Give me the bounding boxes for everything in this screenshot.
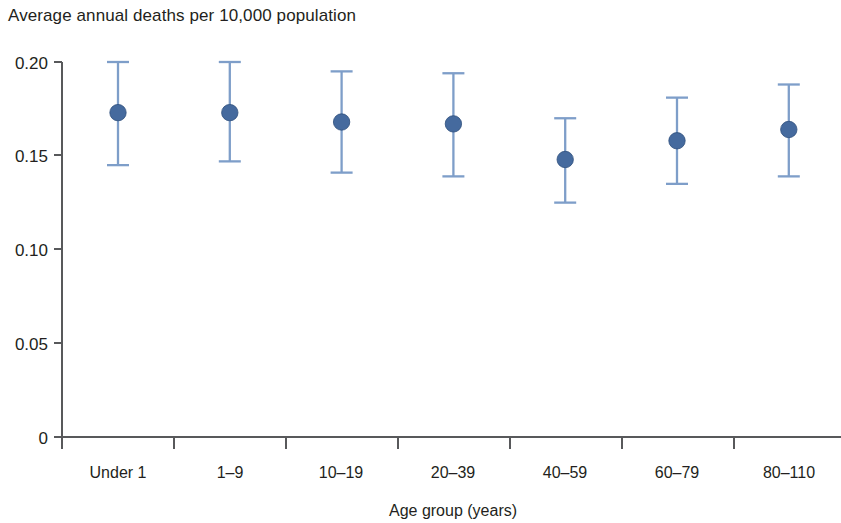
y-tick-label: 0.05 [15, 335, 48, 354]
x-tick-marks [62, 437, 734, 449]
error-bar-point [778, 85, 800, 177]
y-tick-label: 0.15 [15, 147, 48, 166]
error-bar-point [331, 71, 353, 172]
error-bar-point [666, 98, 688, 184]
chart-page: Average annual deaths per 10,000 populat… [0, 0, 841, 523]
y-tick-label: 0.10 [15, 241, 48, 260]
x-tick-labels: Under 1 1–9 10–19 20–39 40–59 60–79 80–1… [90, 464, 816, 481]
data-point-marker [110, 104, 126, 120]
x-tick-label-40-59: 40–59 [543, 464, 588, 481]
data-point-marker [222, 104, 238, 120]
x-tick-label-80-110: 80–110 [763, 464, 815, 481]
y-tick-label: 0 [39, 429, 48, 448]
y-tick-label: 0.20 [15, 54, 48, 73]
x-tick-label-20-39: 20–39 [431, 464, 476, 481]
x-axis-title: Age group (years) [389, 502, 517, 519]
data-point-marker [333, 114, 349, 130]
y-tick-marks [54, 62, 62, 437]
error-bar-point [107, 62, 129, 165]
errorbar-chart: 0.20 0.15 0.10 0.05 0 Under 1 1–9 10–19 … [0, 0, 841, 523]
data-point-marker [557, 151, 573, 167]
x-tick-label-1-9: 1–9 [217, 464, 244, 481]
error-bar-point [554, 118, 576, 202]
x-tick-label-60-79: 60–79 [655, 464, 700, 481]
x-tick-label-10-19: 10–19 [319, 464, 364, 481]
data-series-group [107, 62, 800, 203]
data-point-marker [445, 116, 461, 132]
data-point-marker [669, 133, 685, 149]
x-tick-label-under-1: Under 1 [90, 464, 147, 481]
y-tick-labels: 0.20 0.15 0.10 0.05 0 [15, 54, 48, 448]
data-point-marker [781, 121, 797, 137]
error-bar-point [442, 73, 464, 176]
error-bar-point [219, 62, 241, 161]
